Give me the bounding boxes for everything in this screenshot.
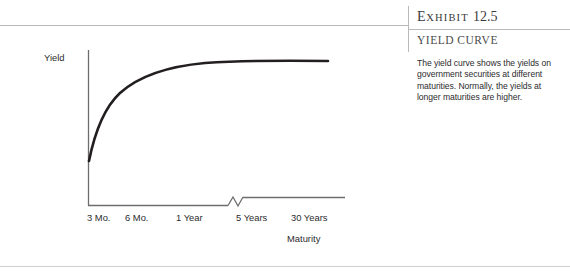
x-tick-label-3mo: 3 Mo. xyxy=(87,212,110,223)
exhibit-title-smallcaps: XHIBIT xyxy=(426,12,469,23)
x-tick-label-1year: 1 Year xyxy=(176,212,203,223)
x-axis-label: Maturity xyxy=(287,233,320,244)
chart-svg xyxy=(0,0,400,279)
exhibit-subtitle: YIELD CURVE xyxy=(417,34,498,46)
x-tick-label-6mo: 6 Mo. xyxy=(125,212,148,223)
x-tick-label-5years: 5 Years xyxy=(236,212,267,223)
yield-curve-line xyxy=(89,61,328,161)
exhibit-number: 12.5 xyxy=(473,9,498,24)
exhibit-caption: The yield curve shows the yields on gove… xyxy=(417,58,565,104)
exhibit-title: EXHIBIT 12.5 xyxy=(417,8,567,26)
exhibit-header: EXHIBIT 12.5 xyxy=(417,8,567,26)
x-axis-break-icon xyxy=(228,197,243,206)
y-axis-label: Yield xyxy=(44,52,65,63)
x-tick-label-30years: 30 Years xyxy=(291,212,328,223)
exhibit-title-lead: E xyxy=(417,9,426,24)
yield-curve-chart: Yield Maturity 3 Mo. 6 Mo. 1 Year 5 Year… xyxy=(0,0,400,279)
header-rule-right xyxy=(408,29,570,30)
